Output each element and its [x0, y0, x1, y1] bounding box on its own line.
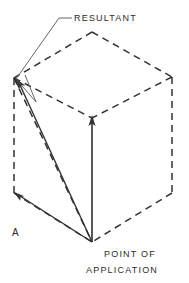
edge-top-right-upper: [92, 32, 172, 77]
edge-bottom-right: [92, 193, 172, 242]
edge-top-right-lower: [92, 77, 172, 118]
point-of-application-label-line2: APPLICATION: [86, 266, 158, 275]
diagram-canvas: [0, 0, 189, 283]
point-of-application-label-line1: POINT OF: [104, 250, 156, 259]
arrowhead-icon-horizontal: [14, 192, 25, 201]
part-label-a: A: [12, 228, 19, 238]
leader-line-icon: [16, 18, 72, 102]
figure-container: RESULTANT A POINT OF APPLICATION: [0, 0, 189, 283]
resultant-label: RESULTANT: [74, 14, 137, 23]
leader-line-path-upper: [16, 18, 72, 79]
edge-top-left-upper: [14, 32, 92, 78]
prism-wireframe: [14, 32, 172, 242]
